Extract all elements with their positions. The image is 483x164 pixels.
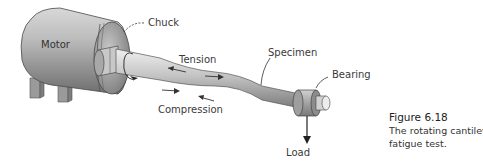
- label-load: Load: [286, 147, 310, 158]
- caption-line-2: fatigue test.: [389, 137, 483, 150]
- figure-number: Figure 6.18: [389, 110, 483, 124]
- label-motor: Motor: [41, 39, 70, 50]
- label-specimen: Specimen: [268, 47, 317, 58]
- bearing: [293, 90, 330, 116]
- chuck: [94, 46, 118, 76]
- label-compression: Compression: [158, 104, 223, 115]
- load-arrow: [303, 116, 311, 144]
- label-bearing: Bearing: [332, 69, 371, 80]
- compression-arrows: [162, 88, 214, 101]
- label-chuck: Chuck: [148, 17, 179, 28]
- figure-caption: Figure 6.18 The rotating cantilever beam…: [389, 110, 483, 150]
- label-tension: Tension: [179, 54, 216, 65]
- caption-line-1: The rotating cantilever beam: [389, 124, 483, 137]
